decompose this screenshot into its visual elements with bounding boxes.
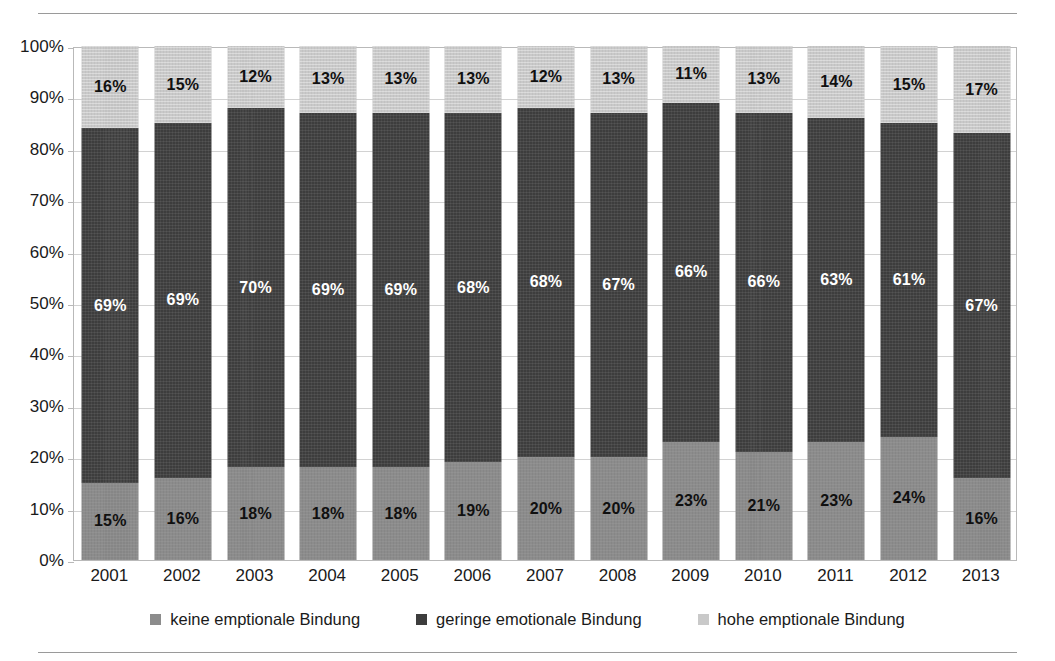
- bar-slot: 20%67%13%: [582, 48, 655, 560]
- bar-value-label: 17%: [953, 82, 1010, 98]
- bar-segment-mid[interactable]: 70%: [227, 108, 284, 468]
- bar-value-label: 69%: [82, 298, 139, 314]
- bar-segment-low[interactable]: 23%: [808, 442, 865, 560]
- bar-segment-high[interactable]: 12%: [517, 46, 574, 108]
- bar-segment-high[interactable]: 13%: [372, 46, 429, 113]
- bar-slot: 16%67%17%: [945, 48, 1018, 560]
- legend-item[interactable]: keine emptionale Bindung: [150, 610, 360, 629]
- legend-item[interactable]: hohe emptionale Bindung: [698, 610, 905, 629]
- bar-segment-mid[interactable]: 66%: [663, 103, 720, 442]
- stacked-bar[interactable]: 24%61%15%: [881, 48, 938, 560]
- bar-segment-high[interactable]: 12%: [227, 46, 284, 108]
- bar-segment-high[interactable]: 17%: [953, 46, 1010, 133]
- bar-slot: 18%70%12%: [219, 48, 292, 560]
- bar-segment-low[interactable]: 20%: [590, 457, 647, 560]
- bar-segment-low[interactable]: 20%: [517, 457, 574, 560]
- bar-segment-high[interactable]: 15%: [881, 46, 938, 123]
- bar-slot: 23%63%14%: [800, 48, 873, 560]
- y-axis-tick-label: 50%: [0, 294, 64, 314]
- stacked-bar[interactable]: 20%67%13%: [590, 48, 647, 560]
- bar-segment-mid[interactable]: 69%: [154, 123, 211, 478]
- bar-slot: 16%69%15%: [147, 48, 220, 560]
- bar-value-label: 13%: [735, 71, 792, 87]
- bar-value-label: 24%: [881, 490, 938, 506]
- y-axis-tick-label: 30%: [0, 397, 64, 417]
- bar-value-label: 14%: [808, 74, 865, 90]
- bar-value-label: 11%: [663, 66, 720, 82]
- bar-value-label: 13%: [590, 71, 647, 87]
- bar-segment-high[interactable]: 15%: [154, 46, 211, 123]
- stacked-bar[interactable]: 21%66%13%: [735, 48, 792, 560]
- y-axis-tick-label: 60%: [0, 243, 64, 263]
- stacked-bar[interactable]: 19%68%13%: [445, 48, 502, 560]
- stacked-bar[interactable]: 16%69%15%: [154, 48, 211, 560]
- stacked-bar[interactable]: 18%69%13%: [372, 48, 429, 560]
- x-axis-tick-label: 2008: [599, 566, 637, 586]
- bar-segment-low[interactable]: 24%: [881, 437, 938, 560]
- legend-label: hohe emptionale Bindung: [718, 610, 905, 629]
- bar-segment-mid[interactable]: 68%: [445, 113, 502, 463]
- legend-swatch-icon: [150, 614, 161, 625]
- bar-segment-mid[interactable]: 63%: [808, 118, 865, 442]
- bar-value-label: 66%: [735, 274, 792, 290]
- bar-segment-high[interactable]: 11%: [663, 46, 720, 103]
- x-axis-tick-label: 2005: [381, 566, 419, 586]
- stacked-bar[interactable]: 20%68%12%: [517, 48, 574, 560]
- y-axis-tick-label: 70%: [0, 191, 64, 211]
- bar-segment-low[interactable]: 18%: [300, 467, 357, 560]
- stacked-bar[interactable]: 23%63%14%: [808, 48, 865, 560]
- stacked-bar[interactable]: 18%69%13%: [300, 48, 357, 560]
- bar-segment-low[interactable]: 21%: [735, 452, 792, 560]
- bar-value-label: 66%: [663, 264, 720, 280]
- stacked-bar[interactable]: 16%67%17%: [953, 48, 1010, 560]
- bar-value-label: 15%: [82, 513, 139, 529]
- bar-value-label: 67%: [953, 298, 1010, 314]
- bar-value-label: 20%: [517, 501, 574, 517]
- x-axis-tick-label: 2002: [163, 566, 201, 586]
- bar-segment-mid[interactable]: 66%: [735, 113, 792, 452]
- bar-value-label: 69%: [372, 282, 429, 298]
- bar-value-label: 23%: [663, 493, 720, 509]
- x-axis-tick-label: 2013: [962, 566, 1000, 586]
- bar-segment-high[interactable]: 13%: [445, 46, 502, 113]
- bar-slot: 20%68%12%: [510, 48, 583, 560]
- stacked-bar[interactable]: 18%70%12%: [227, 48, 284, 560]
- bar-segment-mid[interactable]: 68%: [517, 108, 574, 458]
- y-axis-tick-label: 0%: [0, 551, 64, 571]
- bar-segment-mid[interactable]: 67%: [590, 113, 647, 457]
- x-axis-tick-label: 2009: [671, 566, 709, 586]
- plot-area: 15%69%16%16%69%15%18%70%12%18%69%13%18%6…: [73, 47, 1017, 561]
- bar-segment-high[interactable]: 13%: [590, 46, 647, 113]
- bar-slot: 23%66%11%: [655, 48, 728, 560]
- bar-segment-low[interactable]: 23%: [663, 442, 720, 560]
- x-axis: 2001200220032004200520062007200820092010…: [73, 566, 1017, 596]
- stacked-bar[interactable]: 23%66%11%: [663, 48, 720, 560]
- bar-value-label: 68%: [445, 280, 502, 296]
- bar-segment-mid[interactable]: 69%: [300, 113, 357, 468]
- bar-value-label: 15%: [154, 77, 211, 93]
- bar-value-label: 13%: [445, 71, 502, 87]
- legend-swatch-icon: [416, 614, 427, 625]
- bar-segment-mid[interactable]: 61%: [881, 123, 938, 437]
- bar-segment-mid[interactable]: 69%: [372, 113, 429, 468]
- bar-segment-low[interactable]: 16%: [953, 478, 1010, 560]
- y-axis-tick-label: 100%: [0, 37, 64, 57]
- bar-segment-mid[interactable]: 67%: [953, 133, 1010, 477]
- bar-segment-high[interactable]: 14%: [808, 46, 865, 118]
- bar-value-label: 13%: [372, 71, 429, 87]
- bar-segment-high[interactable]: 13%: [735, 46, 792, 113]
- x-axis-tick-label: 2003: [236, 566, 274, 586]
- legend-item[interactable]: geringe emotionale Bindung: [416, 610, 642, 629]
- bar-segment-low[interactable]: 19%: [445, 462, 502, 560]
- bar-value-label: 23%: [808, 493, 865, 509]
- bar-segment-high[interactable]: 16%: [82, 46, 139, 128]
- bar-value-label: 18%: [372, 506, 429, 522]
- bar-segment-low[interactable]: 18%: [372, 467, 429, 560]
- y-axis-tick-label: 90%: [0, 88, 64, 108]
- bar-segment-low[interactable]: 16%: [154, 478, 211, 560]
- bar-segment-high[interactable]: 13%: [300, 46, 357, 113]
- bar-segment-low[interactable]: 18%: [227, 467, 284, 560]
- bar-segment-low[interactable]: 15%: [82, 483, 139, 560]
- stacked-bar[interactable]: 15%69%16%: [82, 48, 139, 560]
- bar-segment-mid[interactable]: 69%: [82, 128, 139, 483]
